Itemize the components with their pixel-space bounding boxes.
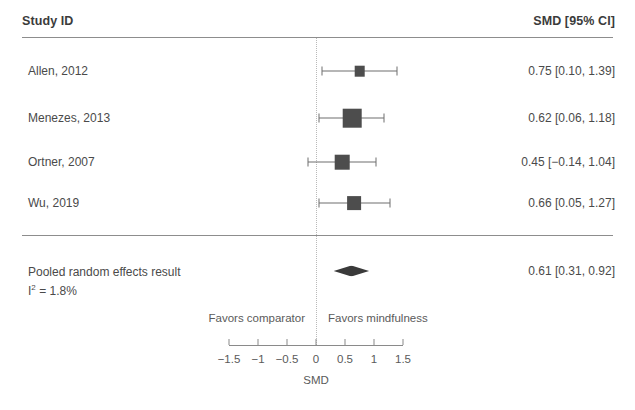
- study-effect-value: 0.62 [0.06, 1.18]: [528, 111, 615, 125]
- x-axis-line: [229, 345, 403, 346]
- heterogeneity-stat: I2 = 1.8%: [28, 280, 181, 299]
- header-divider: [22, 37, 613, 38]
- column-header-study-id: Study ID: [22, 14, 74, 28]
- study-label: Ortner, 2007: [28, 155, 95, 169]
- confidence-interval-cap: [321, 67, 322, 76]
- confidence-interval-cap: [384, 114, 385, 123]
- study-point-estimate-marker: [347, 196, 361, 210]
- pooled-effect-value: 0.61 [0.31, 0.92]: [528, 264, 615, 278]
- x-axis-title: SMD: [303, 374, 329, 386]
- study-point-estimate-marker: [354, 66, 365, 77]
- study-effect-value: 0.45 [−0.14, 1.04]: [521, 155, 615, 169]
- x-axis-tick: [374, 339, 375, 345]
- forest-plot: Study ID SMD [95% CI] Allen, 20120.75 [0…: [0, 0, 635, 410]
- pooled-diamond-marker: [334, 266, 369, 277]
- study-point-estimate-marker: [335, 155, 350, 170]
- x-axis-tick: [287, 339, 288, 345]
- favors-mindfulness-label: Favors mindfulness: [328, 312, 428, 324]
- pooled-label-text: Pooled random effects result: [28, 265, 181, 279]
- confidence-interval-cap: [318, 199, 319, 208]
- study-label: Menezes, 2013: [28, 111, 110, 125]
- favors-comparator-label: Favors comparator: [208, 312, 305, 324]
- x-axis-tick: [258, 339, 259, 345]
- study-effect-value: 0.75 [0.10, 1.39]: [528, 64, 615, 78]
- x-axis-tick-label: 1: [371, 353, 377, 365]
- study-label: Allen, 2012: [28, 64, 88, 78]
- x-axis-tick-label: 0.5: [337, 353, 353, 365]
- x-axis-tick-label: −1: [251, 353, 264, 365]
- column-header-effect-size: SMD [95% CI]: [533, 14, 615, 28]
- diamond-shape: [334, 266, 369, 277]
- x-axis-tick-label: 1.5: [395, 353, 411, 365]
- confidence-interval-cap: [319, 114, 320, 123]
- study-effect-value: 0.66 [0.05, 1.27]: [528, 196, 615, 210]
- x-axis-tick: [345, 339, 346, 345]
- x-axis-tick: [229, 339, 230, 345]
- x-axis-tick-label: −0.5: [276, 353, 299, 365]
- study-point-estimate-marker: [343, 109, 362, 128]
- pooled-label: Pooled random effects result I2 = 1.8%: [28, 264, 181, 299]
- confidence-interval-cap: [389, 199, 390, 208]
- confidence-interval-cap: [307, 158, 308, 167]
- x-axis-tick: [316, 339, 317, 345]
- pooled-divider: [22, 235, 613, 236]
- reference-line-zero: [316, 38, 317, 345]
- heterogeneity-value: = 1.8%: [36, 284, 77, 298]
- x-axis-tick-label: 0: [313, 353, 319, 365]
- confidence-interval-cap: [396, 67, 397, 76]
- confidence-interval-cap: [376, 158, 377, 167]
- x-axis-tick-label: −1.5: [218, 353, 241, 365]
- x-axis-tick: [403, 339, 404, 345]
- study-label: Wu, 2019: [28, 196, 79, 210]
